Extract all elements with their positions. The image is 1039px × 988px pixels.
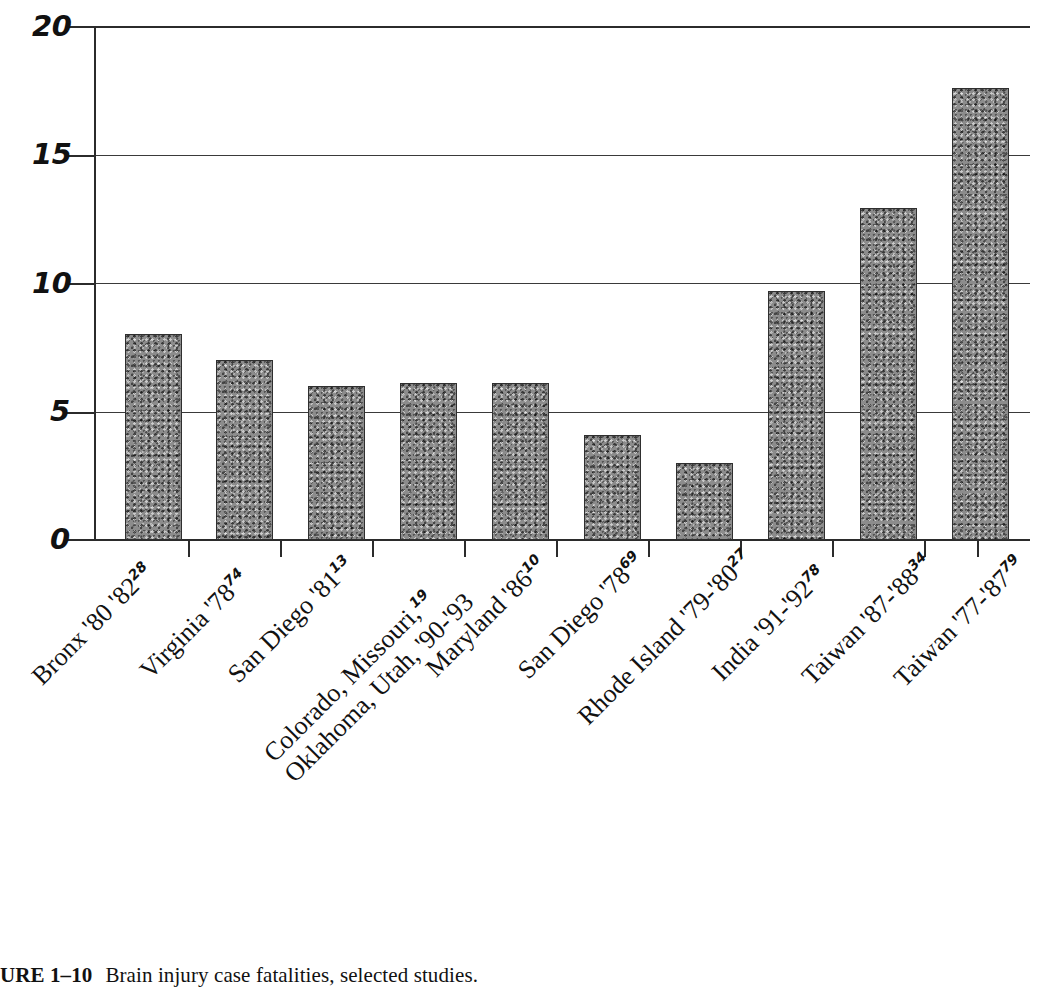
bar-4 — [492, 383, 549, 540]
bar-5 — [584, 435, 641, 540]
bar-series — [94, 26, 1030, 540]
bar-6 — [676, 463, 733, 540]
bar-0 — [125, 334, 182, 540]
bar-8 — [860, 208, 917, 540]
bar-9 — [952, 88, 1009, 540]
x-axis-category-labels: Bronx '80 '8228 Virginia '7874 San Diego… — [0, 540, 1039, 940]
bar-1 — [216, 360, 273, 540]
category-label-0-text: Bronx '80 '82 — [26, 571, 145, 690]
category-label-0: Bronx '80 '8228 — [26, 558, 159, 691]
bar-3 — [400, 383, 457, 540]
figure-caption-text: Brain injury case fatalities, selected s… — [105, 963, 478, 987]
bar-7 — [768, 291, 825, 540]
y-tick-5 — [66, 412, 96, 414]
category-label-6: Rhode Island '79-'8027 — [572, 545, 758, 731]
figure-caption-number: URE 1–10 — [0, 963, 92, 987]
figure-caption: URE 1–10Brain injury case fatalities, se… — [0, 963, 1039, 988]
bar-2 — [308, 386, 365, 540]
